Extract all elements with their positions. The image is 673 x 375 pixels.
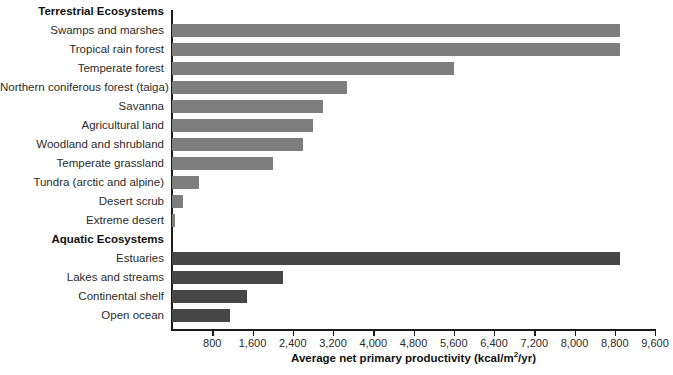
category-label: Woodland and shrubland — [0, 135, 168, 154]
category-label: Continental shelf — [0, 287, 168, 306]
x-axis-tick-label: 8,800 — [592, 337, 638, 349]
x-axis-tick-label: 4,800 — [391, 337, 437, 349]
x-axis-tick — [615, 330, 616, 336]
chart-row: Northern coniferous forest (taiga) — [0, 78, 673, 97]
x-axis-tick-label: 8,000 — [552, 337, 598, 349]
group-heading-row: Aquatic Ecosystems — [0, 230, 673, 249]
x-axis-tick — [655, 330, 656, 336]
x-axis-tick — [212, 330, 213, 336]
x-axis-tick-label: 3,200 — [310, 337, 356, 349]
x-axis-tick — [373, 330, 374, 336]
bar — [172, 119, 313, 132]
category-label: Temperate forest — [0, 59, 168, 78]
category-label: Savanna — [0, 97, 168, 116]
x-axis-tick — [293, 330, 294, 336]
chart-row: Woodland and shrubland — [0, 135, 673, 154]
group-heading-label: Aquatic Ecosystems — [0, 230, 168, 249]
category-label: Tropical rain forest — [0, 40, 168, 59]
chart-row: Open ocean — [0, 306, 673, 325]
chart-row: Temperate grassland — [0, 154, 673, 173]
x-axis-tick-label: 5,600 — [431, 337, 477, 349]
chart-row: Temperate forest — [0, 59, 673, 78]
bar — [172, 24, 620, 37]
bar — [172, 195, 183, 208]
bar — [172, 271, 283, 284]
x-axis-tick-label: 6,400 — [471, 337, 517, 349]
x-axis-title-superscript: 2 — [514, 350, 518, 359]
productivity-bar-chart: Terrestrial EcosystemsSwamps and marshes… — [0, 0, 673, 375]
bar — [172, 309, 230, 322]
category-label: Northern coniferous forest (taiga) — [0, 78, 168, 97]
chart-row: Estuaries — [0, 249, 673, 268]
chart-row: Swamps and marshes — [0, 21, 673, 40]
x-axis-tick-label: 800 — [189, 337, 235, 349]
x-axis-tick — [534, 330, 535, 336]
category-label: Agricultural land — [0, 116, 168, 135]
chart-row: Tundra (arctic and alpine) — [0, 173, 673, 192]
bar — [172, 252, 620, 265]
category-label: Tundra (arctic and alpine) — [0, 173, 168, 192]
chart-row: Desert scrub — [0, 192, 673, 211]
x-axis-tick — [333, 330, 334, 336]
chart-row: Agricultural land — [0, 116, 673, 135]
category-label: Estuaries — [0, 249, 168, 268]
x-axis-tick-label: 9,600 — [632, 337, 673, 349]
x-axis-tick — [494, 330, 495, 336]
bar — [172, 100, 323, 113]
x-axis-tick — [414, 330, 415, 336]
group-heading-label: Terrestrial Ecosystems — [0, 2, 168, 21]
category-label: Desert scrub — [0, 192, 168, 211]
category-label: Lakes and streams — [0, 268, 168, 287]
x-axis-tick-label: 4,000 — [350, 337, 396, 349]
bar — [172, 157, 273, 170]
bar — [172, 290, 247, 303]
chart-row: Continental shelf — [0, 287, 673, 306]
category-label: Swamps and marshes — [0, 21, 168, 40]
category-label: Extreme desert — [0, 211, 168, 230]
x-axis-tick-label: 7,200 — [511, 337, 557, 349]
category-label: Open ocean — [0, 306, 168, 325]
bar — [172, 138, 303, 151]
bar — [172, 176, 199, 189]
x-axis-tick-label: 2,400 — [270, 337, 316, 349]
group-heading-row: Terrestrial Ecosystems — [0, 2, 673, 21]
bar — [172, 43, 620, 56]
chart-row: Extreme desert — [0, 211, 673, 230]
chart-row: Savanna — [0, 97, 673, 116]
x-axis-tick-label: 1,600 — [230, 337, 276, 349]
bar — [172, 214, 175, 227]
x-axis-tick — [253, 330, 254, 336]
x-axis-tick — [454, 330, 455, 336]
category-label: Temperate grassland — [0, 154, 168, 173]
bar — [172, 81, 347, 94]
bar — [172, 62, 454, 75]
chart-row: Lakes and streams — [0, 268, 673, 287]
chart-row: Tropical rain forest — [0, 40, 673, 59]
x-axis-tick — [575, 330, 576, 336]
x-axis-title: Average net primary productivity (kcal/m… — [171, 352, 656, 364]
